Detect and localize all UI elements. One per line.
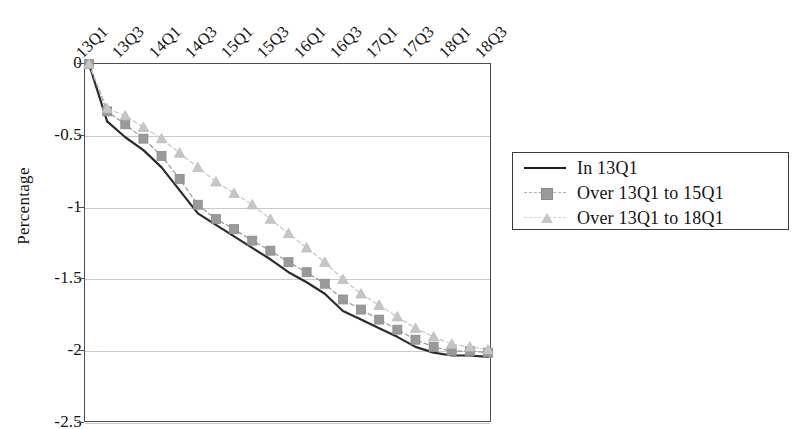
series-marker-triangle	[320, 257, 330, 266]
triangle-marker-icon	[541, 213, 553, 223]
series-marker-square	[175, 174, 184, 183]
legend-label-0: In 13Q1	[577, 159, 638, 177]
x-axis-tick-label: 15Q1	[218, 23, 256, 61]
y-axis-tick-mark	[77, 63, 84, 64]
series-marker-triangle	[447, 339, 457, 348]
x-axis-tick-label: 14Q1	[146, 23, 184, 61]
series-line	[89, 64, 488, 357]
series-marker-square	[157, 151, 166, 160]
series-marker-triangle	[392, 312, 402, 321]
series-marker-square	[284, 258, 293, 267]
y-axis-tick-label: -0.5	[12, 126, 82, 143]
series-marker-triangle	[229, 188, 239, 197]
y-axis-tick-label: -2.5	[12, 413, 82, 429]
y-axis: Percentage 0-0.5-1-1.5-2-2.5	[0, 0, 82, 429]
x-axis-tick-label: 13Q3	[110, 23, 148, 61]
y-axis-tick-mark	[77, 278, 84, 279]
legend-label-2: Over 13Q1 to 18Q1	[577, 209, 724, 227]
legend-label-1: Over 13Q1 to 15Q1	[577, 184, 724, 202]
series-marker-triangle	[120, 111, 130, 120]
y-axis-tick-mark	[77, 135, 84, 136]
x-axis-tick-label: 18Q3	[472, 23, 510, 61]
series-marker-square	[338, 295, 347, 304]
series-marker-triangle	[211, 177, 221, 186]
x-axis-tick-label: 16Q3	[327, 23, 365, 61]
series-marker-square	[121, 120, 130, 129]
x-axis-tick-label: 16Q1	[291, 23, 329, 61]
series-marker-square	[302, 268, 311, 277]
y-axis-tick-mark	[77, 207, 84, 208]
x-axis-tick-label: 17Q1	[364, 23, 402, 61]
legend: In 13Q1 Over 13Q1 to 15Q1 Over 13Q1 to 1…	[512, 152, 789, 230]
series-marker-triangle	[247, 200, 257, 209]
chart-root: Percentage 0-0.5-1-1.5-2-2.5 13Q113Q314Q…	[0, 0, 799, 429]
series-marker-triangle	[283, 228, 293, 237]
series-marker-square	[429, 342, 438, 351]
series-marker-square	[266, 246, 275, 255]
series-marker-square	[193, 200, 202, 209]
y-axis-tick-label: -1	[12, 198, 82, 215]
plot-area	[84, 63, 491, 422]
series-marker-triangle	[156, 133, 166, 142]
legend-item-1[interactable]: Over 13Q1 to 15Q1	[522, 181, 724, 205]
series-marker-square	[230, 225, 239, 234]
series-marker-triangle	[265, 214, 275, 223]
x-axis-tick-label: 17Q3	[400, 23, 438, 61]
x-axis-tick-label: 14Q3	[182, 23, 220, 61]
legend-key-solid-line	[522, 158, 568, 178]
series-marker-square	[375, 315, 384, 324]
x-axis-tick-label: 15Q3	[255, 23, 293, 61]
y-axis-tick-mark	[77, 350, 84, 351]
series-line	[89, 64, 488, 353]
square-marker-icon	[541, 188, 553, 200]
series-marker-triangle	[356, 289, 366, 298]
series-layer	[85, 64, 492, 423]
legend-item-0[interactable]: In 13Q1	[522, 156, 638, 180]
series-marker-triangle	[428, 332, 438, 341]
legend-item-2[interactable]: Over 13Q1 to 18Q1	[522, 206, 724, 230]
series-marker-triangle	[338, 274, 348, 283]
y-axis-tick-label: -2	[12, 341, 82, 358]
series-marker-triangle	[410, 323, 420, 332]
y-axis-tick-label: -1.5	[12, 269, 82, 286]
x-axis-labels: 13Q113Q314Q114Q315Q115Q316Q116Q317Q117Q3…	[0, 0, 799, 63]
legend-key-triangle-marker	[522, 208, 568, 228]
series-marker-square	[320, 279, 329, 288]
series-marker-triangle	[374, 300, 384, 309]
series-marker-square	[248, 236, 257, 245]
series-marker-square	[357, 305, 366, 314]
series-marker-square	[139, 134, 148, 143]
legend-key-square-marker	[522, 183, 568, 203]
gridline	[85, 423, 490, 424]
series-marker-triangle	[193, 162, 203, 171]
series-marker-triangle	[301, 243, 311, 252]
x-axis-tick-label: 18Q1	[436, 23, 474, 61]
series-marker-square	[411, 335, 420, 344]
series-marker-triangle	[174, 148, 184, 157]
series-marker-square	[393, 325, 402, 334]
y-axis-tick-mark	[77, 422, 84, 423]
series-line	[89, 64, 488, 350]
series-marker-square	[211, 215, 220, 224]
series-marker-triangle	[138, 122, 148, 131]
x-axis-tick-label: 13Q1	[73, 23, 111, 61]
